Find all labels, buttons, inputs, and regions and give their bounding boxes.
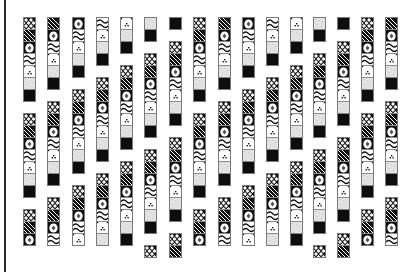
tile-crosshatch-icon	[145, 54, 156, 66]
tile-diagonal-stripes-icon	[48, 18, 59, 30]
tile-strip	[169, 137, 182, 222]
tile-diagonal-stripes-icon	[291, 78, 302, 90]
tile-waves-icon	[48, 42, 59, 54]
tile-waves-icon	[267, 18, 278, 30]
tile-crosshatch-icon	[97, 174, 108, 186]
tile-waves-icon	[386, 234, 397, 245]
tile-crosshatch-icon	[267, 174, 278, 186]
tile-strip	[290, 17, 303, 54]
tile-waves-icon	[243, 222, 254, 234]
tile-diamond-icon	[24, 138, 35, 150]
tile-diagonal-stripes-icon	[145, 162, 156, 174]
tile-black-icon	[121, 138, 132, 149]
tile-diagonal-stripes-icon	[362, 126, 373, 138]
tile-strip	[72, 185, 85, 246]
tile-waves-icon	[338, 174, 349, 186]
tile-dots-icon	[48, 150, 59, 162]
tile-gray-icon	[97, 42, 108, 54]
tile-diagonal-stripes-icon	[219, 18, 230, 30]
tile-strip	[337, 17, 350, 30]
tile-strip	[361, 17, 374, 102]
tile-dots-icon	[314, 198, 325, 210]
tile-diamond-icon	[24, 234, 35, 245]
tile-waves-icon	[121, 198, 132, 210]
tile-diamond-icon	[219, 222, 230, 234]
tile-strip	[266, 17, 279, 66]
tile-strip	[169, 233, 182, 258]
tile-black-icon	[314, 126, 325, 137]
tile-black-icon	[145, 222, 156, 233]
tile-strip	[144, 53, 157, 138]
tile-dots-icon	[97, 126, 108, 138]
tile-dots-icon	[267, 30, 278, 42]
tile-gray-icon	[145, 18, 156, 30]
tile-diamond-icon	[243, 114, 254, 126]
tile-strip	[72, 89, 85, 174]
tile-waves-icon	[24, 54, 35, 66]
tile-diagonal-stripes-icon	[194, 30, 205, 42]
tile-strip	[313, 149, 326, 234]
tile-gray-icon	[97, 138, 108, 150]
tile-waves-icon	[314, 90, 325, 102]
tile-crosshatch-icon	[24, 114, 35, 126]
tile-crosshatch-icon	[291, 66, 302, 78]
tile-diagonal-stripes-icon	[24, 126, 35, 138]
tile-dots-icon	[314, 102, 325, 114]
tile-diagonal-stripes-icon	[73, 198, 84, 210]
tile-diamond-icon	[194, 138, 205, 150]
tile-diamond-icon	[73, 210, 84, 222]
tile-black-icon	[170, 114, 181, 125]
tile-strip	[313, 17, 326, 42]
tile-crosshatch-icon	[219, 102, 230, 114]
tile-diamond-icon	[97, 198, 108, 210]
tile-diamond-icon	[145, 78, 156, 90]
tile-strip	[23, 209, 36, 246]
tile-diamond-icon	[267, 198, 278, 210]
tile-waves-icon	[194, 54, 205, 66]
tile-crosshatch-icon	[73, 90, 84, 102]
tile-waves-icon	[243, 30, 254, 42]
tile-diamond-icon	[386, 126, 397, 138]
tile-strip	[23, 17, 36, 102]
tile-dots-icon	[24, 162, 35, 174]
tile-dots-icon	[121, 210, 132, 222]
tile-strip	[313, 245, 326, 258]
tile-diagonal-stripes-icon	[170, 54, 181, 66]
tile-strip	[120, 17, 133, 54]
tile-diamond-icon	[291, 90, 302, 102]
tile-crosshatch-icon	[145, 246, 156, 257]
tile-strip	[290, 65, 303, 150]
tile-diamond-icon	[338, 162, 349, 174]
tile-diamond-icon	[291, 186, 302, 198]
tile-diamond-icon	[48, 30, 59, 42]
tile-diagonal-stripes-icon	[314, 66, 325, 78]
tile-dots-icon	[194, 66, 205, 78]
tile-black-icon	[243, 66, 254, 77]
tile-diagonal-stripes-icon	[338, 54, 349, 66]
tile-diamond-icon	[362, 234, 373, 245]
tile-black-icon	[386, 78, 397, 89]
tile-dots-icon	[170, 90, 181, 102]
tile-gray-icon	[291, 30, 302, 42]
tile-diamond-icon	[219, 126, 230, 138]
tile-strip	[193, 209, 206, 246]
tile-crosshatch-icon	[48, 102, 59, 114]
tile-diagonal-stripes-icon	[194, 126, 205, 138]
tile-diamond-icon	[170, 66, 181, 78]
tile-gray-icon	[121, 30, 132, 42]
tile-strip	[337, 137, 350, 222]
tile-strip	[47, 101, 60, 186]
tile-crosshatch-icon	[24, 18, 35, 30]
tile-dots-icon	[97, 222, 108, 234]
tile-gray-icon	[386, 162, 397, 174]
tile-dots-icon	[97, 30, 108, 42]
tile-black-icon	[24, 186, 35, 197]
tile-black-icon	[145, 126, 156, 137]
tile-dots-icon	[73, 234, 84, 245]
tile-strip	[144, 149, 157, 234]
tile-strip	[385, 101, 398, 186]
tile-dots-icon	[48, 54, 59, 66]
tile-diamond-icon	[73, 18, 84, 30]
tile-waves-icon	[314, 186, 325, 198]
tile-black-icon	[73, 162, 84, 173]
